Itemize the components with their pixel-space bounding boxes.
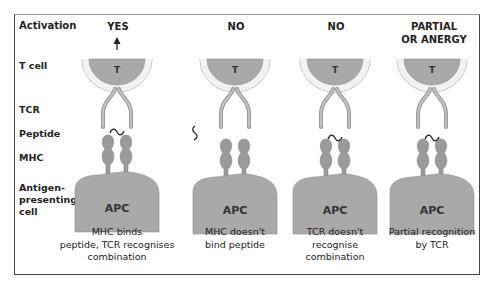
svg-text:T: T xyxy=(332,65,339,75)
svg-text:T: T xyxy=(232,65,239,75)
svg-text:APC: APC xyxy=(105,202,130,215)
activation-arrow-icon xyxy=(114,37,121,50)
peptide-icon xyxy=(425,135,439,141)
svg-text:T: T xyxy=(429,65,436,75)
svg-text:APC: APC xyxy=(323,204,348,217)
svg-text:T: T xyxy=(114,65,121,75)
column-partial-graphic: T APC xyxy=(390,59,474,234)
unbound-peptide-icon xyxy=(193,126,197,140)
caption-yes: MHC binds peptide, TCR recognises combin… xyxy=(57,226,177,264)
column-no-2-graphic: T APC xyxy=(293,59,377,234)
svg-text:APC: APC xyxy=(420,204,445,217)
column-no-1-graphic: T APC xyxy=(193,59,277,234)
peptide-icon xyxy=(328,135,342,141)
column-yes-graphic: T APC xyxy=(75,37,159,232)
caption-partial: Partial recognition by TCR xyxy=(372,226,492,251)
peptide-icon xyxy=(110,129,124,135)
svg-text:APC: APC xyxy=(223,204,248,217)
